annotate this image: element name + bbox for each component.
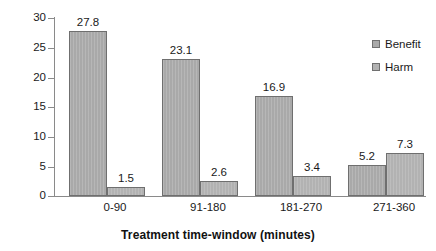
y-axis-tick-20 <box>48 78 54 79</box>
y-axis-tick-label-15: 15 <box>4 101 46 113</box>
bar-label-harm-271-360: 7.3 <box>380 138 430 150</box>
bar-benefit-271-360[interactable] <box>348 165 386 196</box>
legend-item-harm[interactable]: Harm <box>372 59 421 75</box>
bar-harm-91-180[interactable] <box>200 181 238 196</box>
x-axis-category-91-180: 91-180 <box>162 201 254 214</box>
y-axis-tick-25 <box>48 48 54 49</box>
bar-label-harm-181-270: 3.4 <box>287 161 337 173</box>
y-axis-tick-15 <box>48 107 54 108</box>
x-axis-category-0-90: 0-90 <box>69 201 161 214</box>
bar-label-harm-91-180: 2.6 <box>194 166 244 178</box>
y-axis-tick-label-20: 20 <box>4 72 46 84</box>
y-axis-tick-10 <box>48 137 54 138</box>
bar-chart: 30 25 20 15 10 5 0 27.8 1.5 23.1 <box>0 0 436 251</box>
bar-benefit-181-270[interactable] <box>255 96 293 196</box>
y-axis-tick-0 <box>48 196 54 197</box>
x-axis-category-181-270: 181-270 <box>255 201 347 214</box>
plot-area: 27.8 1.5 23.1 2.6 16.9 3.4 5.2 7.3 <box>55 18 424 196</box>
bar-label-benefit-181-270: 16.9 <box>249 81 299 93</box>
legend: Benefit Harm <box>372 36 421 82</box>
bar-label-benefit-0-90: 27.8 <box>63 16 113 28</box>
y-axis-tick-label-30: 30 <box>4 12 46 24</box>
bar-group-0-90: 27.8 1.5 <box>69 18 147 196</box>
legend-label-harm: Harm <box>385 61 413 73</box>
legend-swatch-harm-icon <box>372 63 380 71</box>
bar-label-benefit-271-360: 5.2 <box>342 150 392 162</box>
y-axis-tick-label-10: 10 <box>4 131 46 143</box>
legend-item-benefit[interactable]: Benefit <box>372 36 421 52</box>
bar-harm-0-90[interactable] <box>107 187 145 196</box>
x-axis-category-271-360: 271-360 <box>348 201 436 214</box>
legend-swatch-benefit-icon <box>372 40 380 48</box>
bar-label-harm-0-90: 1.5 <box>101 172 151 184</box>
legend-label-benefit: Benefit <box>385 38 421 50</box>
x-axis-title: Treatment time-window (minutes) <box>0 228 436 242</box>
y-axis-tick-label-25: 25 <box>4 42 46 54</box>
bar-label-benefit-91-180: 23.1 <box>156 44 206 56</box>
bar-group-181-270: 16.9 3.4 <box>255 18 333 196</box>
y-axis-tick-label-5: 5 <box>4 161 46 173</box>
x-axis-line <box>54 196 426 197</box>
bar-group-91-180: 23.1 2.6 <box>162 18 240 196</box>
y-axis-tick-label-0: 0 <box>4 190 46 202</box>
y-axis-tick-30 <box>48 18 54 19</box>
y-axis-tick-5 <box>48 167 54 168</box>
bar-harm-181-270[interactable] <box>293 176 331 196</box>
